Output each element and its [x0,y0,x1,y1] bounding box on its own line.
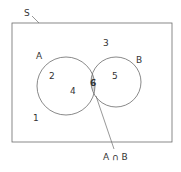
region-a-only-label-4: 4 [70,86,76,96]
intersection-label: A ∩ B [103,152,128,162]
set-b-label: B [136,55,142,65]
set-a-circle [37,57,95,115]
intersection-leader-line [96,96,114,149]
region-a-only-label-2: 2 [49,71,55,81]
region-b-only-label: 5 [112,71,118,81]
region-outside-label: 1 [33,113,39,123]
set-b-circle [91,57,141,107]
universe-label: S [24,8,30,18]
venn-diagram: S A B 1 2 4 3 5 6 A ∩ B [0,0,181,172]
universe-leader-line [32,16,39,23]
region-outside-top-label: 3 [103,38,109,48]
region-intersection-label: 6 [90,78,96,88]
set-a-label: A [36,51,43,61]
